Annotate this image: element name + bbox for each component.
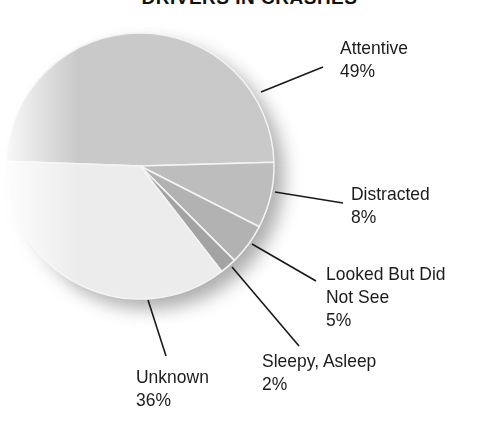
label-looked-line1: Looked But Did (326, 262, 446, 285)
label-distracted: Distracted 8% (351, 182, 430, 228)
label-distracted-pct: 8% (351, 205, 430, 228)
left-fade (0, 20, 280, 310)
label-looked-line2: Not See (326, 285, 446, 308)
label-sleepy-pct: 2% (262, 372, 376, 395)
label-unknown-name: Unknown (136, 365, 209, 388)
label-looked: Looked But Did Not See 5% (326, 262, 446, 331)
label-unknown: Unknown 36% (136, 365, 209, 411)
label-attentive-name: Attentive (340, 36, 408, 59)
label-attentive-pct: 49% (340, 59, 408, 82)
leader-line-distracted (275, 192, 343, 203)
label-sleepy: Sleepy, Asleep 2% (262, 349, 376, 395)
label-sleepy-name: Sleepy, Asleep (262, 349, 376, 372)
label-unknown-pct: 36% (136, 388, 209, 411)
label-attentive: Attentive 49% (340, 36, 408, 82)
label-looked-pct: 5% (326, 308, 446, 331)
label-distracted-name: Distracted (351, 182, 430, 205)
